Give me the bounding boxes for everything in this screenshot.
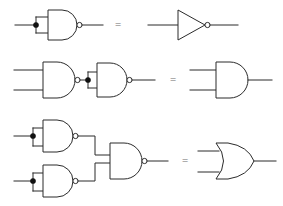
junction-dot-top-row3 (30, 133, 35, 138)
logic-gate-equivalence-diagram: = (0, 0, 283, 206)
nand-inverter-bottom-row3 (14, 163, 110, 197)
not-output-bubble-row1 (205, 22, 210, 27)
link-wire-top-row3 (78, 136, 110, 155)
nand-body-2-row2 (97, 63, 127, 97)
not-gate-row1 (148, 10, 238, 40)
nand-gate-2-row2 (85, 63, 155, 97)
equals-sign-row2: = (170, 73, 176, 85)
nand-output-bubble-1-row2 (75, 77, 80, 82)
nand-output-bubble-2-row2 (127, 77, 132, 82)
equals-sign-row1: = (115, 18, 121, 30)
and-body-row2 (216, 62, 248, 98)
nand-body-1-row2 (43, 62, 75, 98)
row-1: = (15, 10, 238, 40)
junction-dot-bottom-row3 (30, 178, 35, 183)
row-2: = (14, 62, 272, 98)
nand-output-bubble-top-row3 (73, 133, 78, 138)
and-gate-row2 (190, 62, 272, 98)
nand-output-bubble-output-row3 (142, 158, 147, 163)
or-gate-row3 (198, 143, 276, 179)
nand-output-bubble-row1 (77, 22, 82, 27)
link-wire-bottom-row3 (78, 163, 110, 181)
or-body-row3 (216, 143, 254, 179)
nand-gate-output-row3 (110, 143, 168, 179)
row-3: = (14, 120, 276, 197)
nand-output-bubble-bottom-row3 (73, 178, 78, 183)
not-body-row1 (178, 10, 205, 40)
nand-inverter-top-row3 (14, 120, 110, 155)
nand-gate-row1 (15, 10, 103, 40)
diagram-canvas: = (0, 0, 283, 206)
equals-sign-row3: = (182, 154, 188, 166)
nand-body-bottom-row3 (43, 165, 73, 197)
nand-gate-1-row2 (14, 62, 80, 98)
nand-body-output-row3 (110, 143, 142, 179)
nand-body-top-row3 (43, 120, 73, 152)
junction-dot-row1 (33, 22, 38, 27)
nand-body-row1 (48, 10, 77, 40)
junction-dot-row2 (85, 77, 90, 82)
